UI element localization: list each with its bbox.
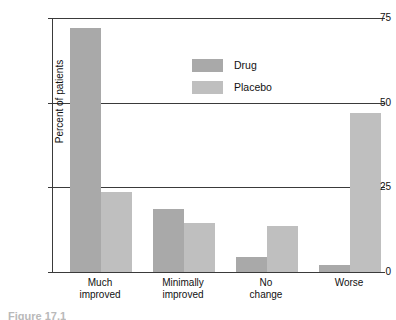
bar-drug-minimally-improved [153,209,184,272]
y-axis-title: Percent of patients [54,37,65,167]
y-tick-mark-0 [48,272,52,273]
y-tick-label-75: 75 [347,13,391,23]
y-tick-mark-25 [48,187,52,188]
y-tick-label-50: 50 [347,98,391,108]
y-tick-mark-50 [48,103,52,104]
legend-label-drug: Drug [234,60,257,71]
bar-drug-much-improved [70,28,101,272]
bar-drug-worse [319,265,350,272]
legend-swatch-drug [192,59,223,72]
bar-placebo-minimally-improved [184,223,215,272]
bar-drug-no-change [236,257,267,272]
legend-swatch-placebo [192,81,223,94]
gridline-25 [52,187,385,188]
y-tick-label-25: 25 [347,182,391,192]
x-axis-line [52,272,385,273]
bar-placebo-worse [350,113,381,272]
plot-area: Drug Placebo [52,18,385,272]
bar-placebo-much-improved [101,192,132,272]
category-label-worse: Worse [299,277,396,289]
bar-placebo-no-change [267,226,298,272]
legend: Drug Placebo [192,59,272,103]
figure-caption: Figure 17.1 [8,310,66,320]
y-tick-mark-75 [48,18,52,19]
legend-label-placebo: Placebo [234,82,272,93]
y-tick-label-0: 0 [347,267,391,277]
legend-item-drug: Drug [192,59,272,72]
gridline-75 [52,18,385,19]
legend-item-placebo: Placebo [192,81,272,94]
